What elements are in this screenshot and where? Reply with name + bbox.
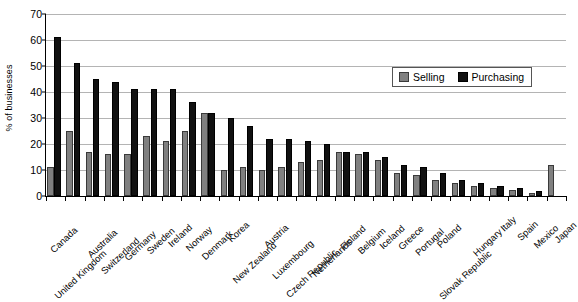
bar-selling	[124, 154, 130, 196]
bar-purchasing	[420, 167, 426, 196]
bar-group	[393, 14, 412, 196]
bar-selling	[336, 152, 342, 196]
x-axis-tick	[85, 196, 86, 201]
bar-selling	[259, 170, 265, 196]
y-axis-tick-label: 20	[30, 138, 42, 150]
legend-item-selling: Selling	[399, 71, 445, 83]
y-axis-title-text: % of businesses	[4, 64, 14, 131]
x-axis-tick	[65, 196, 66, 201]
bar-group	[296, 14, 315, 196]
bar-purchasing	[286, 139, 292, 196]
bar-purchasing	[401, 165, 407, 196]
bar-group	[316, 14, 335, 196]
bar-group	[181, 14, 200, 196]
bar-purchasing	[151, 89, 157, 196]
bar-selling	[143, 136, 149, 196]
y-axis-tick-label: 40	[30, 86, 42, 98]
x-axis-tick	[354, 196, 355, 201]
y-axis-tick-label: 70	[30, 8, 42, 20]
bar-group	[46, 14, 65, 196]
x-axis-tick	[162, 196, 163, 201]
legend-swatch-selling	[399, 72, 409, 82]
x-axis-tick	[239, 196, 240, 201]
bar-selling	[490, 188, 496, 196]
bar-group	[470, 14, 489, 196]
x-axis-labels: CanadaUnited KingdomAustraliaSwitzerland…	[45, 202, 565, 271]
bar-group	[65, 14, 84, 196]
x-axis-tick	[316, 196, 317, 201]
bar-selling	[86, 152, 92, 196]
bar-selling	[317, 160, 323, 196]
legend-item-purchasing: Purchasing	[458, 71, 525, 83]
bar-group	[547, 14, 566, 196]
legend-label-purchasing: Purchasing	[472, 71, 525, 83]
bar-group	[508, 14, 527, 196]
bar-selling	[375, 160, 381, 196]
bar-purchasing	[459, 180, 465, 196]
y-axis-title: % of businesses	[0, 0, 18, 196]
x-axis-tick	[393, 196, 394, 201]
bar-selling	[548, 165, 554, 196]
x-axis-tick	[277, 196, 278, 201]
bar-group	[354, 14, 373, 196]
bar-selling	[509, 190, 515, 197]
x-axis-tick	[412, 196, 413, 201]
bar-group	[489, 14, 508, 196]
bar-group	[85, 14, 104, 196]
bar-group	[104, 14, 123, 196]
bar-purchasing	[189, 102, 195, 196]
y-axis-tick-label: 10	[30, 164, 42, 176]
y-axis-tick-label: 50	[30, 60, 42, 72]
legend-swatch-purchasing	[458, 72, 468, 82]
x-axis-tick	[142, 196, 143, 201]
x-axis-tick	[508, 196, 509, 201]
bar-purchasing	[208, 113, 214, 196]
bar-selling	[452, 183, 458, 196]
bar-purchasing	[170, 89, 176, 196]
bar-selling	[432, 180, 438, 196]
x-axis-tick	[46, 196, 47, 201]
bar-purchasing	[363, 152, 369, 196]
bar-purchasing	[93, 79, 99, 196]
bar-group	[277, 14, 296, 196]
bar-group	[239, 14, 258, 196]
bar-purchasing	[54, 37, 60, 196]
bar-purchasing	[266, 139, 272, 196]
bar-purchasing	[517, 188, 523, 196]
x-axis-tick	[181, 196, 182, 201]
x-axis-label: Japan	[552, 219, 578, 244]
x-axis-tick	[547, 196, 548, 201]
bar-group	[450, 14, 469, 196]
bar-selling	[182, 131, 188, 196]
bar-selling	[163, 141, 169, 196]
bar-group	[162, 14, 181, 196]
x-axis-tick	[200, 196, 201, 201]
bar-selling	[47, 167, 53, 196]
bar-group	[431, 14, 450, 196]
x-axis-tick	[470, 196, 471, 201]
legend-label-selling: Selling	[413, 71, 445, 83]
bar-purchasing	[131, 89, 137, 196]
bar-selling	[394, 173, 400, 196]
bar-group	[412, 14, 431, 196]
y-axis-tick-label: 30	[30, 112, 42, 124]
x-axis-tick	[450, 196, 451, 201]
bar-selling	[471, 186, 477, 196]
plot-area: 010203040506070	[45, 14, 566, 197]
x-axis-tick	[258, 196, 259, 201]
bar-selling	[529, 193, 535, 196]
x-axis-tick	[296, 196, 297, 201]
x-axis-tick	[219, 196, 220, 201]
bar-series-container	[46, 14, 566, 196]
x-axis-tick	[373, 196, 374, 201]
x-axis-label: Slovak Republic	[437, 248, 494, 302]
bar-selling	[298, 162, 304, 196]
bar-group	[142, 14, 161, 196]
bar-group	[258, 14, 277, 196]
x-axis-tick	[123, 196, 124, 201]
x-axis-tick	[431, 196, 432, 201]
bar-group	[335, 14, 354, 196]
bar-purchasing	[324, 144, 330, 196]
y-axis-tick-label: 60	[30, 34, 42, 46]
